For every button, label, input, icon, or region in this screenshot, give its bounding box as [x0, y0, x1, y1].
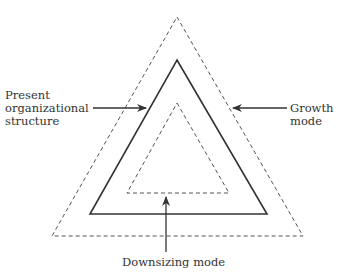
triangle-diagram [0, 0, 344, 273]
growth-label-line2: mode [290, 115, 333, 128]
downsizing-label: Downsizing mode [122, 256, 225, 269]
present-solid-triangle [90, 60, 267, 214]
outer-dashed-triangle [52, 17, 303, 236]
inner-dashed-triangle [127, 103, 229, 193]
diagram: Present organizational structure Growth … [0, 0, 344, 273]
present-label-line3: structure [5, 115, 89, 128]
present-label: Present organizational structure [5, 89, 89, 128]
growth-label: Growth mode [290, 102, 333, 128]
